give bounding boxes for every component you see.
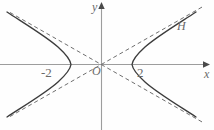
y-axis-arrowhead [98,2,104,9]
curve-name-label: H [177,20,186,32]
origin-label: O [92,65,101,77]
vertex-right-label: 2 [137,66,144,79]
vertex-left-label: -2 [41,66,52,79]
hyperbola-figure: y x O -2 2 H [0,0,214,130]
asymptote-positive-slope [10,7,203,117]
asymptote-negative-slope [10,13,203,123]
x-axis-label: x [204,68,209,80]
y-axis-label: y [92,1,97,13]
